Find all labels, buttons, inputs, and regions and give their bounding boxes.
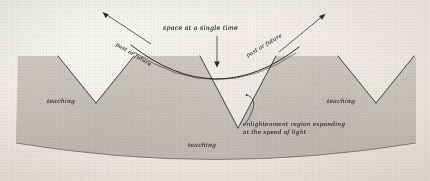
space-curve-pointer xyxy=(214,36,220,68)
diagram-canvas: space at a single time past or future pa… xyxy=(0,0,430,181)
past-or-future-arrow-right xyxy=(279,14,326,52)
enlightenment-shaded-region xyxy=(16,56,416,160)
past-or-future-arrow-left xyxy=(103,12,152,44)
diagram-artwork xyxy=(0,0,430,181)
